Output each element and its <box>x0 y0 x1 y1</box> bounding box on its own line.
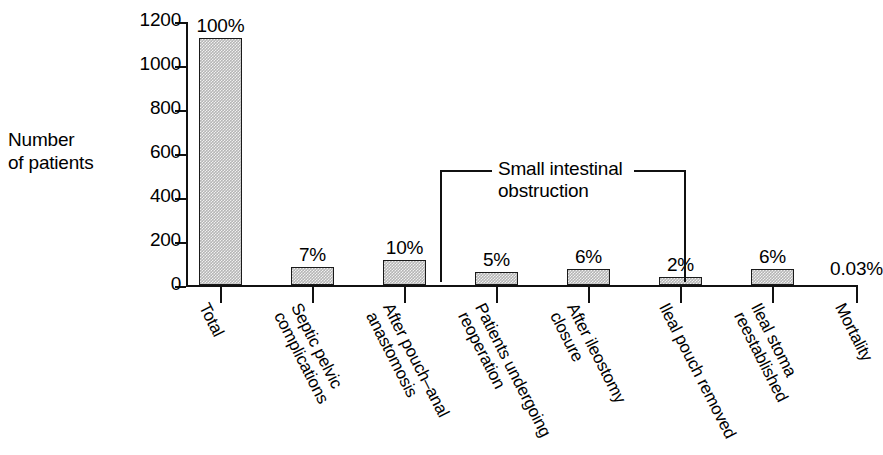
y-tick-label-200: 200 <box>150 230 181 249</box>
y-tick-label-1000: 1000 <box>140 54 181 73</box>
x-label-after-pouch-anal-anastomosis: After pouch–anal anastomosis <box>362 300 453 429</box>
x-label-mortality: Mortality <box>831 300 876 364</box>
bar-label-ileal-stoma-reestablished: 6% <box>759 247 786 267</box>
bar-label-total: 100% <box>197 16 245 36</box>
x-axis-line <box>186 285 858 287</box>
y-tick-label-1200: 1200 <box>140 10 181 29</box>
x-tick-total <box>220 287 222 303</box>
bar-label-septic-pelvic-complications: 7% <box>299 245 326 265</box>
bar-after-pouch-anal-anastomosis: 10% <box>383 260 426 285</box>
plot-area: 1200 1000 800 600 400 200 0 <box>186 22 858 287</box>
bar-ileal-stoma-reestablished: 6% <box>751 269 794 285</box>
x-tick-septic-pelvic-complications <box>312 287 314 303</box>
x-label-ileal-stoma-reestablished: Ileal stoma reestablished <box>730 300 809 405</box>
x-tick-ileal-pouch-removed <box>680 287 682 303</box>
x-tick-ileal-stoma-reestablished <box>772 287 774 303</box>
small-intestinal-obstruction-bracket: Small intestinal obstruction <box>440 170 686 282</box>
bar-total: 100% <box>199 38 242 285</box>
x-label-ileal-pouch-removed: Ileal pouch removed <box>655 300 740 442</box>
x-tick-after-pouch-anal-anastomosis <box>404 287 406 303</box>
y-tick-label-600: 600 <box>150 142 181 161</box>
x-label-septic-pelvic-complications: Septic pelvic complications <box>270 300 349 407</box>
y-tick-label-0: 0 <box>171 274 181 293</box>
bar-label-after-pouch-anal-anastomosis: 10% <box>386 238 423 258</box>
bar-label-mortality: 0.03% <box>830 259 883 279</box>
x-tick-after-ileostomy-closure <box>588 287 590 303</box>
x-tick-patients-undergoing-reoperation <box>496 287 498 303</box>
y-tick-label-800: 800 <box>150 98 181 117</box>
x-label-after-ileostomy-closure: After ileostomy closure <box>546 300 630 415</box>
y-axis-title: Number of patients <box>8 128 138 174</box>
y-axis-line <box>186 22 188 286</box>
x-label-total: Total <box>195 300 228 340</box>
x-tick-mortality <box>856 287 858 303</box>
x-label-patients-undergoing-reoperation: Patients undergoing reoperation <box>454 300 555 449</box>
bar-septic-pelvic-complications: 7% <box>291 267 334 285</box>
y-tick-label-400: 400 <box>150 186 181 205</box>
small-intestinal-obstruction-label: Small intestinal obstruction <box>498 158 623 202</box>
